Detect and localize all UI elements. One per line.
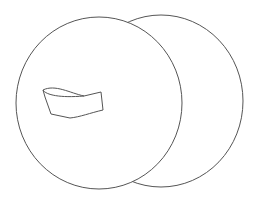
discs-drawing: [0, 0, 259, 204]
